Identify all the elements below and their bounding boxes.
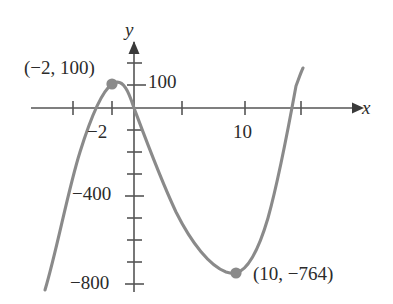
- x-tick-label-minus-2: −2: [87, 122, 107, 141]
- x-axis-label: x: [362, 98, 370, 117]
- graph-figure: y x 100 −2 10 −400 −800 (−2, 100) (10, −…: [0, 0, 393, 304]
- local-min-marker: [230, 267, 241, 278]
- y-tick-label-minus-400: −400: [72, 184, 111, 203]
- local-max-point-label: (−2, 100): [24, 58, 95, 77]
- cubic-curve-plot: [0, 0, 393, 304]
- y-tick-label-100: 100: [148, 72, 177, 91]
- local-min-point-label: (10, −764): [253, 264, 333, 283]
- y-axis-label: y: [125, 20, 133, 39]
- x-tick-label-10: 10: [233, 122, 252, 141]
- cubic-curve-path: [45, 68, 303, 290]
- local-max-marker: [106, 78, 117, 89]
- axis-group: [31, 41, 364, 292]
- y-axis-arrowhead: [129, 41, 140, 54]
- y-tick-label-minus-800: −800: [70, 273, 109, 292]
